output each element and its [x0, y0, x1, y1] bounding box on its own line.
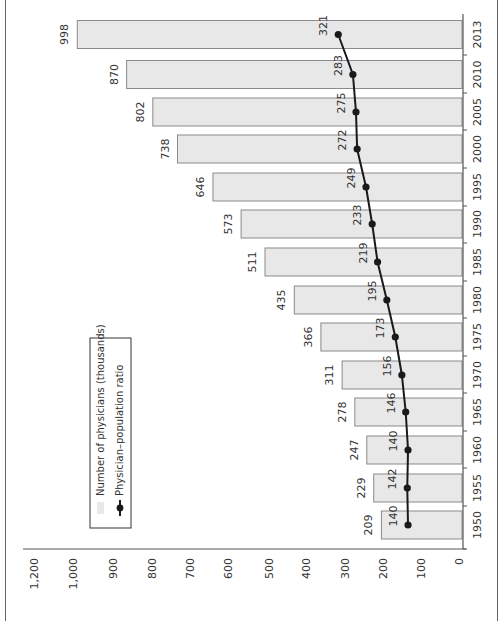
ratio-marker: [404, 446, 411, 453]
bar-value-label: 870: [108, 64, 121, 85]
ratio-value-label: 140: [387, 431, 400, 452]
ratio-value-label: 173: [374, 318, 387, 339]
ratio-marker: [349, 71, 356, 78]
physicians-chart: 2092292472783113664355115736467388028709…: [0, 0, 503, 621]
ratio-value-label: 140: [387, 506, 400, 527]
bar-1960: [367, 436, 462, 464]
ratio-marker: [398, 371, 405, 378]
x-tick-label: 1980: [471, 286, 484, 314]
legend-label-line: Physician–population ratio: [114, 365, 125, 496]
x-tick-label: 1990: [471, 210, 484, 238]
ratio-marker: [362, 183, 369, 190]
legend: Number of physicians (thousands)Physicia…: [90, 324, 131, 528]
ratio-value-label: 219: [357, 243, 370, 264]
legend-bar-swatch: [97, 502, 104, 514]
ratio-value-label: 321: [317, 15, 330, 36]
ratio-value-label: 142: [386, 469, 399, 490]
y-tick-label: 100: [415, 558, 428, 579]
y-tick-label: 300: [339, 558, 352, 579]
ratio-marker: [354, 145, 361, 152]
y-tick-label: 1,200: [28, 558, 41, 590]
ratio-value-label: 233: [351, 205, 364, 226]
bar-1995: [213, 173, 462, 201]
bar-2005: [153, 98, 462, 126]
y-tick-label: 500: [263, 558, 276, 579]
x-tick-label: 1995: [471, 173, 484, 201]
ratio-value-label: 283: [332, 55, 345, 76]
bar-value-label: 278: [336, 402, 349, 423]
bar-value-label: 646: [194, 177, 207, 198]
ratio-marker: [335, 31, 342, 38]
bar-2010: [127, 61, 462, 89]
ratio-marker: [404, 521, 411, 528]
bar-value-label: 573: [222, 214, 235, 235]
y-tick-label: 700: [184, 558, 197, 579]
legend-label-bars: Number of physicians (thousands): [95, 324, 106, 496]
legend-marker-icon: [117, 505, 124, 512]
ratio-value-label: 195: [366, 281, 379, 302]
ratio-value-label: 272: [336, 130, 349, 151]
ratio-value-label: 156: [381, 356, 394, 377]
bar-value-label: 209: [362, 515, 375, 536]
y-tick-label: 1,000: [67, 558, 80, 590]
bar-value-label: 998: [58, 24, 71, 45]
x-tick-label: 1970: [471, 361, 484, 389]
x-tick-label: 1955: [471, 474, 484, 502]
ratio-marker: [374, 258, 381, 265]
bar-value-label: 802: [134, 102, 147, 123]
y-tick-label: 900: [107, 558, 120, 579]
bar-value-label: 229: [355, 478, 368, 499]
bar-value-label: 511: [246, 252, 259, 273]
bar-1975: [321, 323, 462, 351]
x-tick-label: 1960: [471, 436, 484, 464]
x-tick-label: 1985: [471, 248, 484, 276]
y-tick-label: 800: [146, 558, 159, 579]
ratio-value-label: 275: [335, 93, 348, 114]
bar-value-label: 738: [159, 139, 172, 160]
ratio-marker: [392, 333, 399, 340]
bar-2000: [178, 135, 462, 163]
bar-value-label: 311: [323, 365, 336, 386]
bar-2013: [77, 21, 462, 49]
y-tick-label: 200: [377, 558, 390, 579]
y-tick-label: 600: [222, 558, 235, 579]
ratio-marker: [369, 220, 376, 227]
ratio-marker: [404, 484, 411, 491]
x-tick-label: 1975: [471, 323, 484, 351]
bar-value-label: 366: [302, 327, 315, 348]
x-tick-label: 1950: [471, 511, 484, 539]
ratio-marker: [383, 296, 390, 303]
ratio-value-label: 249: [345, 168, 358, 189]
ratio-value-label: 146: [385, 393, 398, 414]
y-tick-label: 0: [453, 558, 466, 565]
x-tick-label: 1965: [471, 398, 484, 426]
y-axis: 01002003004005006007008009001,0001,200: [23, 549, 466, 590]
ratio-marker: [402, 408, 409, 415]
x-tick-label: 2005: [471, 98, 484, 126]
x-tick-label: 2010: [471, 61, 484, 89]
x-tick-label: 2000: [471, 135, 484, 163]
y-tick-label: 400: [300, 558, 313, 579]
ratio-marker: [352, 108, 359, 115]
x-tick-label: 2013: [471, 21, 484, 49]
bar-value-label: 247: [348, 440, 361, 461]
x-axis: 1950195519601965197019751980198519901995…: [463, 14, 484, 549]
bar-value-label: 435: [275, 290, 288, 311]
